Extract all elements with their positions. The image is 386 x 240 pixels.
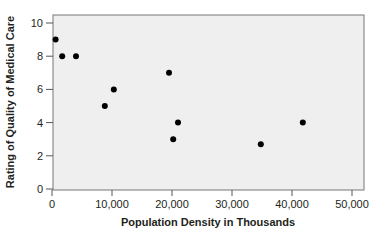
x-axis: 010,00020,00030,00040,00050,000 xyxy=(49,190,369,210)
y-tick-label: 2 xyxy=(37,150,43,162)
data-point xyxy=(102,103,108,109)
data-point xyxy=(170,136,176,142)
y-tick-label: 8 xyxy=(37,50,43,62)
x-tick-label: 40,000 xyxy=(275,198,309,210)
x-tick-label: 20,000 xyxy=(155,198,189,210)
y-axis-title: Rating of Quality of Medical Care xyxy=(4,16,16,188)
data-point xyxy=(175,120,181,126)
x-tick-label: 30,000 xyxy=(215,198,249,210)
x-tick-label: 0 xyxy=(49,198,55,210)
y-tick-label: 4 xyxy=(37,117,43,129)
data-point xyxy=(111,86,117,92)
x-axis-title: Population Density in Thousands xyxy=(121,216,295,228)
data-point xyxy=(300,120,306,126)
data-point xyxy=(53,37,59,43)
y-tick-label: 6 xyxy=(37,83,43,95)
data-point xyxy=(166,70,172,76)
data-point xyxy=(73,53,79,59)
x-tick-label: 10,000 xyxy=(95,198,129,210)
y-tick-label: 0 xyxy=(37,183,43,195)
data-point xyxy=(59,53,65,59)
plot-area xyxy=(53,15,364,190)
x-tick-label: 50,000 xyxy=(335,198,369,210)
y-tick-label: 10 xyxy=(31,17,43,29)
scatter-chart: 0246810 010,00020,00030,00040,00050,000 … xyxy=(0,0,386,240)
y-axis: 0246810 xyxy=(31,17,53,195)
data-point xyxy=(258,141,264,147)
